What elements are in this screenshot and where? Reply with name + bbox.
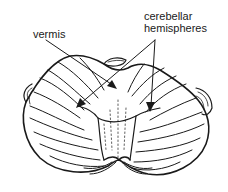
vermis-stipple <box>104 100 126 158</box>
hemisphere-arrow-left <box>80 40 155 104</box>
cerebellum-diagram: vermis cerebellar hemispheres <box>0 0 228 192</box>
hemisphere-arrow-right <box>151 40 155 106</box>
vermis-top <box>98 116 136 122</box>
right-hemisphere-folia <box>128 64 204 170</box>
anterior-notch <box>104 58 126 66</box>
vermis-right-border <box>130 108 160 160</box>
vermis-arrowhead <box>107 80 117 89</box>
vermis-label: vermis <box>33 28 65 40</box>
hemispheres-label-line2: hemispheres <box>144 22 207 34</box>
vermis-left-border <box>78 106 104 160</box>
vermis-bottom <box>104 157 130 160</box>
hemispheres-label-line1: cerebellar <box>144 10 207 22</box>
cerebellar-hemispheres-label: cerebellar hemispheres <box>144 10 207 34</box>
